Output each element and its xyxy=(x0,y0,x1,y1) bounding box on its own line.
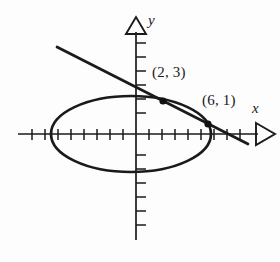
y-axis-group xyxy=(126,17,146,240)
x-axis-group xyxy=(18,123,275,145)
y-axis-arrowhead-icon xyxy=(126,17,146,34)
coordinate-plane-svg xyxy=(0,0,280,262)
intersection-point-b xyxy=(204,120,211,127)
point-a-label: (2, 3) xyxy=(152,64,186,81)
x-axis-arrowhead-icon xyxy=(256,123,275,145)
x-axis-label: x xyxy=(252,100,259,117)
graph-figure: (2, 3) (6, 1) y x xyxy=(0,0,280,262)
y-axis-label: y xyxy=(148,12,155,29)
intersection-point-a xyxy=(159,97,166,104)
point-b-label: (6, 1) xyxy=(202,92,236,109)
